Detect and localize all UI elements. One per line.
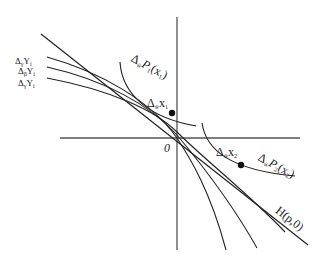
label-subscript: i — [33, 83, 35, 89]
label-subscript: i — [33, 71, 35, 77]
diagram-canvas — [0, 0, 325, 263]
delta-symbol: Δ — [147, 96, 155, 110]
curve-label-bottom: ΔγYi — [18, 79, 35, 89]
curve-gamma-y-top — [47, 57, 226, 250]
label-subscript: 1 — [165, 104, 168, 110]
origin-label: 0 — [164, 142, 170, 154]
point-x1 — [169, 110, 175, 116]
curve-label-middle: ΔβYi — [18, 67, 35, 77]
delta-symbol: Δ — [216, 145, 224, 159]
point-x1-label: Δw̃x1 — [147, 97, 168, 110]
point-x2-label: Δw̃x2 — [216, 146, 237, 159]
hyperplane-line — [41, 34, 308, 245]
label-subscript: 2 — [234, 153, 237, 159]
point-x2 — [238, 162, 244, 168]
